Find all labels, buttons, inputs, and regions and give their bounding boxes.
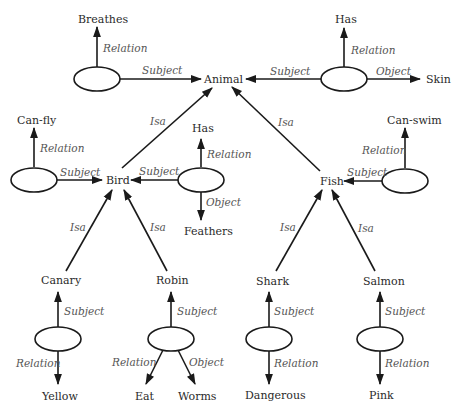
semantic-network-diagram: Relation Subject Breathes Animal Relatio…	[0, 0, 456, 409]
node-pink: Pink	[369, 389, 394, 402]
edge-label-subject: Subject	[139, 165, 180, 177]
node-feathers: Feathers	[184, 225, 233, 238]
edge-label-isa: Isa	[277, 116, 294, 128]
edge-label-relation: Relation	[384, 357, 430, 369]
edge-label-relation: Relation	[111, 356, 157, 368]
node-has: Has	[335, 13, 357, 26]
edge-label-object: Object	[189, 356, 225, 368]
prop-shark-dangerous: Subject Relation	[246, 292, 319, 384]
edge-label-subject: Subject	[142, 64, 183, 76]
edge-label-subject: Subject	[177, 305, 218, 317]
prop-node-ellipse	[321, 67, 367, 91]
edge-label-isa: Isa	[357, 222, 374, 234]
node-has: Has	[192, 122, 214, 135]
node-robin: Robin	[156, 274, 189, 287]
node-canary: Canary	[41, 274, 82, 287]
edge-label-subject: Subject	[270, 65, 311, 77]
edge-label-relation: Relation	[273, 357, 319, 369]
prop-node-ellipse	[35, 327, 81, 351]
prop-can-fly: Relation Subject	[11, 128, 102, 192]
edge-label-isa: Isa	[279, 221, 296, 233]
node-shark: Shark	[256, 275, 289, 288]
node-worms: Worms	[178, 390, 217, 403]
node-fish: Fish	[320, 175, 344, 188]
edge-label-isa: Isa	[149, 221, 166, 233]
prop-node-ellipse	[382, 169, 428, 193]
edge-label-subject: Subject	[274, 305, 315, 317]
edge-label-subject: Subject	[64, 305, 105, 317]
edge-label-relation: Relation	[39, 142, 85, 154]
edge-label-isa: Isa	[69, 221, 86, 233]
prop-node-ellipse	[74, 67, 120, 91]
node-skin: Skin	[426, 73, 451, 86]
prop-node-ellipse	[11, 168, 57, 192]
node-animal: Animal	[203, 73, 244, 86]
prop-node-ellipse	[178, 168, 224, 192]
prop-robin-eat: Subject Relation Object	[111, 292, 225, 384]
edge-label-relation: Relation	[102, 42, 148, 54]
edge-label-object: Object	[376, 65, 412, 77]
edge-label-relation: Relation	[15, 357, 61, 369]
edge-label-object: Object	[206, 196, 242, 208]
node-can-swim: Can-swim	[387, 114, 442, 127]
node-breathes: Breathes	[78, 13, 128, 26]
edge-label-subject: Subject	[60, 166, 101, 178]
prop-breathes: Relation Subject	[74, 27, 201, 91]
node-can-fly: Can-fly	[17, 114, 57, 127]
prop-has-feathers: Relation Subject Object	[131, 139, 252, 220]
prop-can-swim: Relation Subject	[344, 128, 428, 193]
node-salmon: Salmon	[363, 275, 405, 288]
prop-salmon-pink: Subject Relation	[357, 292, 430, 384]
prop-node-ellipse	[148, 327, 194, 351]
edge-label-relation: Relation	[361, 144, 407, 156]
node-dangerous: Dangerous	[245, 389, 306, 402]
prop-node-ellipse	[246, 327, 292, 351]
edge-label-subject: Subject	[347, 166, 388, 178]
prop-has-skin: Relation Subject Object	[246, 28, 420, 91]
node-bird: Bird	[106, 174, 130, 187]
edge-label-relation: Relation	[206, 148, 252, 160]
edge-label-isa: Isa	[149, 115, 166, 127]
edge-label-subject: Subject	[385, 305, 426, 317]
prop-node-ellipse	[357, 327, 403, 351]
node-eat: Eat	[135, 390, 155, 403]
node-yellow: Yellow	[41, 390, 78, 403]
prop-canary-yellow: Subject Relation	[15, 292, 105, 384]
edge-label-relation: Relation	[350, 44, 396, 56]
